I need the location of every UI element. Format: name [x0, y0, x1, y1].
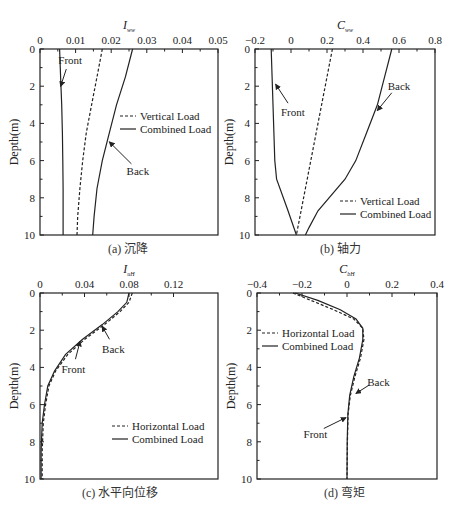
y-tick-label: 4 — [247, 361, 253, 373]
x-axis-label: CbH — [339, 262, 355, 277]
data-series-line — [42, 293, 132, 479]
y-tick-label: 6 — [245, 155, 251, 167]
annotation-label: Back — [102, 343, 125, 355]
chart-panel-a-settlement: 00.010.020.030.040.050246810IwwDepth(m)F… — [7, 18, 228, 241]
data-series-line — [93, 49, 133, 235]
y-axis-label: Depth(m) — [7, 119, 21, 166]
y-tick-label: 4 — [30, 117, 36, 129]
y-tick-label: 2 — [30, 324, 36, 336]
y-tick-label: 2 — [245, 80, 251, 92]
x-axis-label-subscript: bH — [347, 271, 355, 277]
data-series-line — [41, 293, 129, 479]
x-tick-label: 0 — [37, 278, 43, 290]
x-axis-label: IuH — [122, 262, 135, 277]
y-tick-label: 0 — [247, 287, 253, 299]
x-tick-label: 0.8 — [428, 34, 442, 46]
annotation-label: Front — [58, 54, 82, 66]
y-tick-label: 8 — [245, 192, 251, 204]
y-tick-label: 10 — [24, 229, 36, 241]
x-axis-label: Iww — [122, 18, 135, 33]
annotation-label: Back — [388, 80, 411, 92]
x-tick-label: −0.2 — [292, 278, 312, 290]
y-tick-label: 2 — [247, 324, 253, 336]
x-tick-label: 0.12 — [164, 278, 183, 290]
y-tick-label: 4 — [30, 361, 36, 373]
legend-label: Combined Load — [132, 433, 204, 445]
x-tick-label: 0.4 — [356, 34, 370, 46]
x-tick-label: 0.04 — [173, 34, 193, 46]
x-tick-label: 0.4 — [430, 278, 444, 290]
x-tick-label: 0.2 — [320, 34, 334, 46]
y-tick-label: 10 — [24, 473, 36, 485]
caption-b: (b) 轴力 — [320, 239, 361, 257]
annotation-label: Front — [61, 363, 85, 375]
y-tick-label: 10 — [239, 229, 251, 241]
x-tick-label: 0.04 — [75, 278, 95, 290]
data-series-line — [77, 49, 102, 235]
data-series-line — [296, 49, 332, 235]
legend-label: Horizontal Load — [132, 420, 205, 432]
x-tick-label: 0.08 — [119, 278, 139, 290]
annotation-arrow — [102, 326, 109, 339]
x-tick-label: 0.6 — [392, 34, 406, 46]
annotation-arrow — [61, 69, 67, 86]
legend-label: Vertical Load — [360, 195, 420, 207]
chart-panel-d-bending-moment: −0.4−0.200.20.40246810CbHDepth(m)FrontBa… — [224, 262, 444, 485]
x-tick-label: 0.2 — [385, 278, 399, 290]
figure: 00.010.020.030.040.050246810IwwDepth(m)F… — [0, 0, 455, 511]
data-series-line — [60, 49, 64, 235]
caption-c: (c) 水平向位移 — [82, 483, 158, 501]
y-axis-label: Depth(m) — [7, 363, 21, 410]
data-series-line — [271, 49, 296, 235]
y-tick-label: 6 — [247, 399, 253, 411]
x-tick-label: 0.03 — [137, 34, 157, 46]
x-axis-label-subscript: ww — [345, 27, 353, 33]
y-tick-label: 6 — [30, 155, 36, 167]
y-tick-label: 2 — [30, 80, 36, 92]
y-axis-label: Depth(m) — [222, 119, 236, 166]
legend-label: Horizontal Load — [282, 327, 355, 339]
x-tick-label: 0.05 — [208, 34, 228, 46]
x-axis-label-subscript: uH — [127, 271, 135, 277]
annotation-arrow — [109, 142, 131, 164]
legend-label: Combined Load — [140, 123, 212, 135]
annotation-arrow — [324, 418, 346, 429]
annotation-arrow — [356, 385, 369, 393]
plot-frame — [40, 49, 218, 235]
annotation-label: Front — [281, 106, 305, 118]
data-series-line — [295, 293, 363, 479]
x-tick-label: 0 — [37, 34, 43, 46]
annotation-label: Back — [367, 376, 390, 388]
chart-canvas: 00.010.020.030.040.050246810IwwDepth(m)F… — [0, 0, 455, 511]
annotation-label: Front — [304, 428, 328, 440]
legend-label: Vertical Load — [140, 110, 200, 122]
caption-a: (a) 沉降 — [108, 239, 148, 257]
y-tick-label: 8 — [247, 436, 253, 448]
legend-label: Combined Load — [282, 340, 354, 352]
legend-label: Combined Load — [360, 208, 432, 220]
y-tick-label: 8 — [30, 436, 36, 448]
y-tick-label: 8 — [30, 192, 36, 204]
x-axis-label-subscript: ww — [127, 27, 135, 33]
y-axis-label: Depth(m) — [224, 363, 238, 410]
y-tick-label: 0 — [30, 287, 36, 299]
y-tick-label: 4 — [245, 117, 251, 129]
y-tick-label: 10 — [241, 473, 253, 485]
plot-frame — [40, 293, 218, 479]
y-tick-label: 0 — [30, 43, 36, 55]
chart-panel-b-axial-force: −0.200.20.40.60.80246810CwwDepth(m)Front… — [222, 18, 442, 241]
data-series-line — [293, 293, 364, 479]
annotation-label: Back — [127, 165, 150, 177]
y-tick-label: 6 — [30, 399, 36, 411]
annotation-arrow — [276, 84, 288, 103]
x-tick-label: 0 — [288, 34, 294, 46]
chart-panel-c-horizontal-displacement: 00.040.080.120246810IuHDepth(m)FrontBack… — [7, 262, 218, 485]
x-tick-label: 0 — [344, 278, 350, 290]
x-axis-label: Cww — [337, 18, 353, 33]
y-tick-label: 0 — [245, 43, 251, 55]
caption-d: (d) 弯矩 — [324, 483, 365, 501]
x-tick-label: 0.02 — [102, 34, 121, 46]
x-tick-label: 0.01 — [66, 34, 85, 46]
